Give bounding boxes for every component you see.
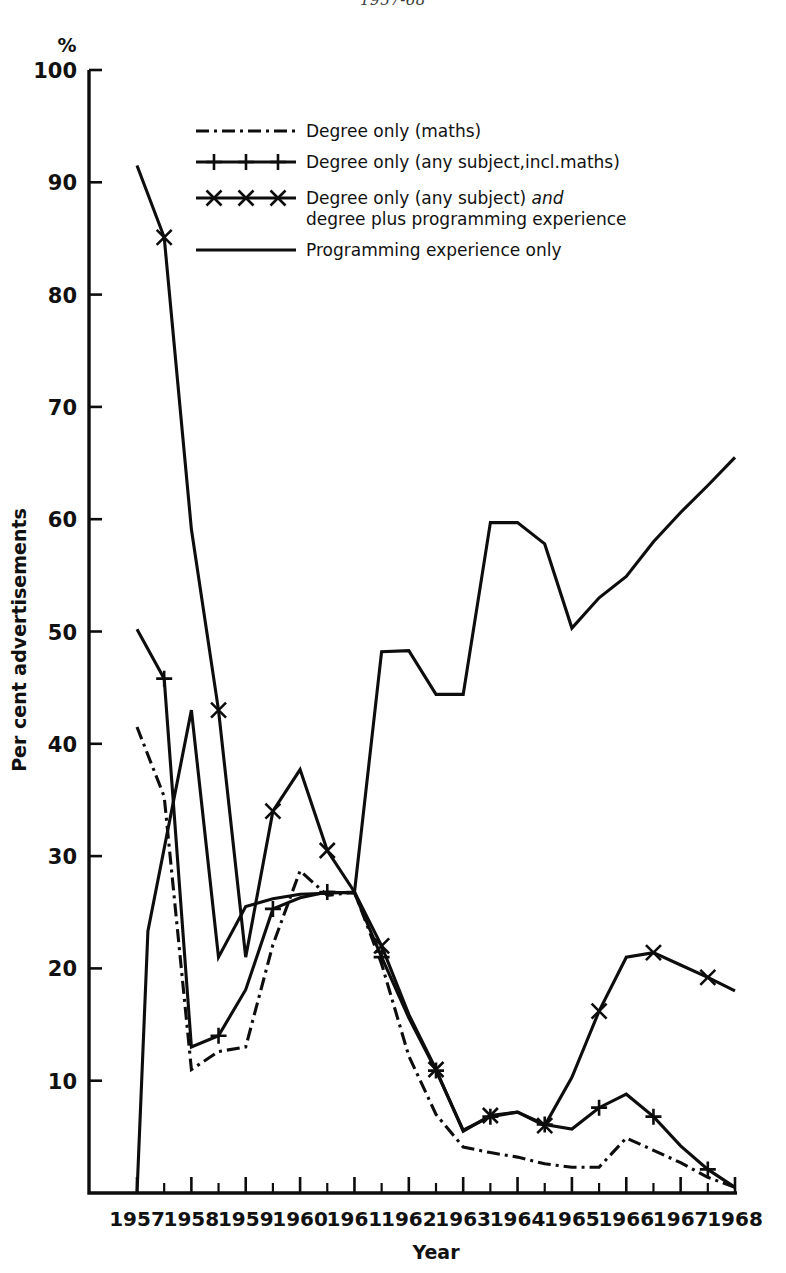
x-tick-label-1965: 1965 — [544, 1207, 600, 1231]
x-tick-label-1959: 1959 — [218, 1207, 274, 1231]
marker-plus — [265, 901, 281, 917]
series-group — [137, 166, 735, 1194]
y-tick-label-10: 10 — [48, 1070, 77, 1094]
x-tick-label-1961: 1961 — [327, 1207, 383, 1231]
legend-sample-2 — [196, 191, 296, 206]
y-tick-label-20: 20 — [48, 957, 77, 981]
series-path-1 — [137, 629, 735, 1187]
series-path-2 — [137, 166, 735, 1132]
x-tick-label-1968: 1968 — [707, 1207, 763, 1231]
x-tick-label-1964: 1964 — [490, 1207, 546, 1231]
y-axis-title: Per cent advertisements — [8, 508, 30, 772]
series-3 — [137, 457, 735, 1193]
y-tick-label-70: 70 — [48, 396, 77, 420]
marker-plus — [211, 1028, 227, 1044]
legend-label-2-line2: degree plus programming experience — [306, 209, 627, 229]
x-tick-label-1966: 1966 — [598, 1207, 654, 1231]
y-tick-label-90: 90 — [48, 171, 77, 195]
y-tick-label-80: 80 — [48, 284, 77, 308]
series-1 — [137, 629, 735, 1187]
chart-legend: Degree only (maths)Degree only (any subj… — [196, 121, 627, 260]
marker-plus — [238, 154, 254, 170]
y-tick-label-50: 50 — [48, 621, 77, 645]
y-tick-label-30: 30 — [48, 845, 77, 869]
marker-x — [320, 843, 335, 858]
y-axis-unit-symbol: % — [57, 34, 76, 56]
legend-label-1: Degree only (any subject,incl.maths) — [306, 152, 620, 172]
marker-plus — [156, 671, 172, 687]
chart-canvas: 102030405060708090100%195719581959196019… — [0, 0, 786, 1273]
legend-label-2-line1: Degree only (any subject) and — [306, 188, 564, 208]
series-path-3 — [137, 457, 735, 1193]
legend-label-0: Degree only (maths) — [306, 121, 481, 141]
x-axis-title: Year — [411, 1241, 460, 1263]
marker-plus — [270, 154, 286, 170]
figure-root: 1957-68 102030405060708090100%1957195819… — [0, 0, 786, 1273]
marker-x — [700, 970, 715, 985]
y-tick-label-100: 100 — [33, 59, 77, 83]
legend-label-3: Programming experience only — [306, 240, 562, 260]
y-tick-label-40: 40 — [48, 733, 77, 757]
legend-sample-1 — [196, 154, 296, 170]
x-tick-label-1962: 1962 — [381, 1207, 437, 1231]
marker-x — [592, 1004, 607, 1019]
x-tick-label-1957: 1957 — [109, 1207, 165, 1231]
marker-plus — [206, 154, 222, 170]
y-tick-label-60: 60 — [48, 508, 77, 532]
x-tick-label-1963: 1963 — [435, 1207, 491, 1231]
x-tick-label-1958: 1958 — [164, 1207, 220, 1231]
x-tick-label-1960: 1960 — [272, 1207, 328, 1231]
series-2 — [137, 166, 735, 1134]
x-tick-label-1967: 1967 — [653, 1207, 709, 1231]
